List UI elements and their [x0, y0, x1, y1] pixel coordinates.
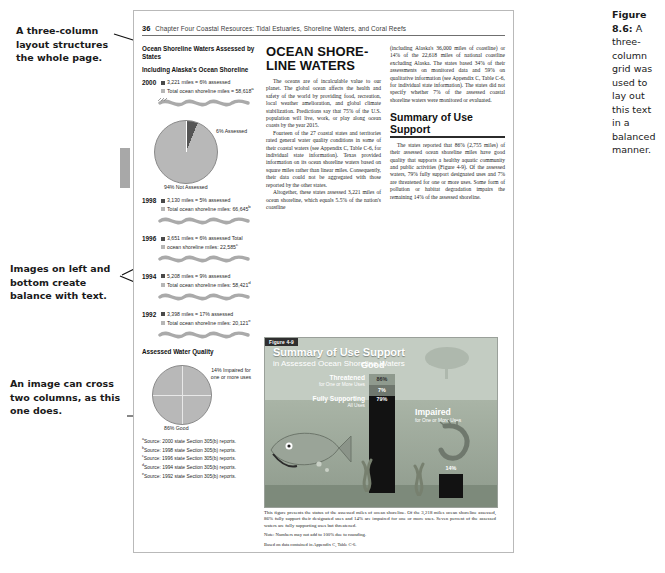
heading-rule — [390, 136, 505, 138]
year-label: 1996 — [142, 235, 158, 250]
pie-1-divider — [186, 121, 187, 152]
running-head: 36 Chapter Four Coastal Resources: Tidal… — [142, 24, 505, 36]
pie-2-label-good: 86% Good — [164, 425, 189, 431]
year-line2: Total ocean shoreline miles: 20,121 — [167, 319, 248, 325]
year-entry-1992: 1992 3,398 miles = 17% assessed Total oc… — [142, 311, 257, 326]
year-line1: 3,221 miles = 6% assessed — [167, 79, 230, 85]
year-line1: 5,208 miles = 9% assessed — [167, 273, 230, 279]
year-entry-1998: 1998 3,130 miles = 5% assessed Total oce… — [142, 197, 257, 212]
year-line2: Total ocean shoreline miles = 58,618 — [167, 88, 251, 94]
annotation-bottom-left: An image can cross two columns, as this … — [10, 377, 132, 418]
year-note: d — [248, 280, 250, 285]
source-text: Source: 1992 state Section 305(b) report… — [144, 473, 236, 478]
figure-caption: This figure presents the status of the a… — [264, 510, 496, 548]
article-heading: OCEAN SHORE-LINE WATERS — [266, 45, 381, 73]
swatch-light-icon — [161, 283, 165, 287]
column-1: Ocean Shoreline Waters Assessed by State… — [142, 45, 257, 479]
swatch-dark-icon — [161, 274, 165, 278]
page-content: 36 Chapter Four Coastal Resources: Tidal… — [142, 24, 505, 539]
column-2-body: The oceans are of incalculable value to … — [266, 78, 381, 211]
source-note: dSource: 1994 state Section 305(b) repor… — [142, 462, 257, 471]
year-line2: Total ocean shoreline miles: 58,421 — [167, 281, 248, 287]
source-note: eSource: 1992 state Section 305(b) repor… — [142, 471, 257, 480]
figure-tag: Figure 4-9 — [265, 338, 298, 346]
annotation-top-left: A three-column layout structures the who… — [16, 24, 128, 65]
figure-caption-source: Based on data contained in Appendix C, T… — [264, 542, 496, 548]
pie-1-label-not-assessed: 94% Not Assessed — [164, 184, 208, 190]
swatch-light-icon — [161, 89, 165, 93]
swatch-dark-icon — [161, 199, 165, 203]
running-head-text: Chapter Four Coastal Resources: Tidal Es… — [155, 25, 406, 32]
paragraph: The oceans are of incalculable value to … — [266, 78, 381, 130]
wave-decoration-icon — [158, 215, 250, 226]
gray-margin-tab — [120, 148, 130, 188]
year-note: c — [236, 242, 238, 247]
year-label: 1994 — [142, 273, 158, 288]
annotation-mid-left: Images on left and bottom create balance… — [10, 262, 130, 303]
bar-segment-good-total: 86% — [369, 374, 395, 385]
year-entry-1994: 1994 5,208 miles = 9% assessed Total oce… — [142, 273, 257, 288]
year-values: 3,398 miles = 17% assessed Total ocean s… — [161, 311, 251, 326]
source-text: Source: 2000 state Section 305(b) report… — [144, 439, 236, 444]
paragraph: Fourteen of the 27 coastal states and te… — [266, 130, 381, 189]
fish-icon — [267, 420, 353, 480]
swatch-dark-icon — [161, 81, 165, 85]
wave-decoration-icon — [158, 253, 250, 264]
figure-caption-note: Note: Numbers may not add to 100% due to… — [264, 532, 496, 538]
label-threatened: Threatened for One or More Uses — [301, 374, 365, 388]
year-note: b — [248, 204, 250, 209]
column-3-body-bottom: The states reported that 86% (2,755 mile… — [390, 142, 505, 201]
wave-decoration-icon — [158, 97, 250, 108]
pie-2-graphic — [152, 365, 212, 425]
swatch-light-icon — [161, 245, 165, 249]
pie-1-graphic — [154, 120, 218, 184]
label-fully-supporting: Fully Supporting All Uses — [291, 395, 365, 409]
pie-1-label-assessed: 6% Assessed — [216, 128, 247, 134]
year-note: e — [248, 318, 250, 323]
year-line2: ocean shoreline miles: 22,585 — [167, 243, 236, 249]
year-note: a — [251, 86, 253, 91]
seaweed-icon — [349, 450, 385, 492]
label-fully-title: Fully Supporting — [291, 395, 365, 403]
swatch-light-icon — [161, 207, 165, 211]
year-line1: 3,398 miles = 17% assessed — [167, 311, 233, 317]
annotation-right-caption: Figure 8.6: A three-column grid was used… — [612, 8, 662, 157]
source-note: bSource: 1998 state Section 305(b) repor… — [142, 445, 257, 454]
wave-decoration-icon — [158, 291, 250, 302]
year-entry-2000: 2000 3,221 miles = 6% assessed Total oce… — [142, 79, 257, 94]
bar-segment-threatened: 7% — [369, 385, 395, 396]
swatch-dark-icon — [161, 312, 165, 316]
swatch-light-icon — [161, 321, 165, 325]
source-notes: aSource: 2000 state Section 305(b) repor… — [142, 436, 257, 479]
tree-icon — [417, 344, 477, 380]
bar-label-good: Good — [361, 360, 385, 370]
document-page: 36 Chapter Four Coastal Resources: Tidal… — [133, 10, 514, 553]
figure-caption-main: This figure presents the status of the a… — [264, 510, 496, 529]
source-text: Source: 1998 state Section 305(b) report… — [144, 447, 236, 452]
year-values: 5,208 miles = 9% assessed Total ocean sh… — [161, 273, 251, 288]
source-text: Source: 1994 state Section 305(b) report… — [144, 465, 236, 470]
seaweed-icon-2 — [401, 456, 437, 496]
year-values: 3,221 miles = 6% assessed Total ocean sh… — [161, 79, 254, 94]
year-line2: Total ocean shoreline miles: 66,645 — [167, 205, 248, 211]
source-note: aSource: 2000 state Section 305(b) repor… — [142, 436, 257, 445]
year-label: 1998 — [142, 197, 158, 212]
col1-quality-heading: Assessed Water Quality — [142, 348, 257, 356]
section-heading-use-support: Summary of Use Support — [390, 111, 505, 135]
wave-decoration-icon — [158, 329, 250, 340]
shrimp-icon — [435, 420, 479, 466]
label-impaired-title: Impaired — [415, 408, 493, 418]
year-entry-1996: 1996 3,651 miles = 6% assessed Total oce… — [142, 235, 257, 250]
pie-2-label-impaired: 14% Impaired for one or more uses — [208, 367, 254, 381]
bar-impaired — [439, 474, 463, 498]
col1-subheading: Including Alaska's Ocean Shoreline — [142, 66, 257, 74]
paragraph: Altogether, these states assessed 3,221 … — [266, 189, 381, 211]
source-text: Source: 1996 state Section 305(b) report… — [144, 456, 236, 461]
source-note: cSource: 1996 state Section 305(b) repor… — [142, 453, 257, 462]
figure-subtitle: in Assessed Ocean Shoreline Waters — [273, 359, 405, 368]
year-values: 3,651 miles = 6% assessed Total ocean sh… — [161, 235, 243, 250]
column-3-body-top: (including Alaska's 36,000 miles of coas… — [390, 45, 505, 104]
pie-2-divider-h — [153, 395, 211, 396]
label-fully-sub: All Uses — [291, 403, 365, 409]
pie-chart-water-quality: 14% Impaired for one or more uses 86% Go… — [142, 359, 257, 433]
